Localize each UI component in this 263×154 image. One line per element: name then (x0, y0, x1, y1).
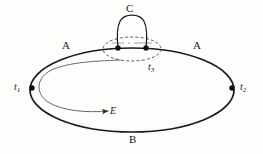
diagram-canvas (0, 0, 263, 154)
label-arch-c: C (126, 3, 133, 14)
label-region-t3-subscript: 3 (151, 66, 155, 74)
label-region-t3: t3 (148, 62, 154, 72)
label-arc-a-left: A (62, 40, 70, 51)
inner-curve (39, 60, 120, 112)
node-t1-dot (29, 85, 34, 90)
node-t2-dot (229, 85, 234, 90)
label-node-t1-subscript: 1 (17, 86, 21, 94)
label-arc-b: B (129, 134, 136, 145)
label-node-t2-subscript: 2 (243, 86, 247, 94)
figure-container: A A B C t1 t2 t3 E (0, 0, 263, 154)
label-arc-a-right: A (193, 40, 201, 51)
label-field-e: E (110, 106, 116, 116)
node-c-right-dot (143, 45, 148, 50)
label-node-t2: t2 (240, 82, 246, 92)
label-node-t1: t1 (14, 82, 20, 92)
node-c-left-dot (115, 45, 120, 50)
